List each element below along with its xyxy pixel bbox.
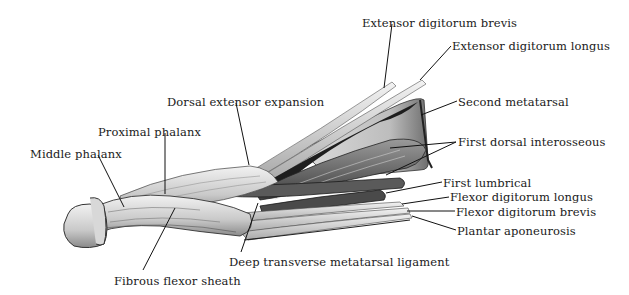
label-middle-phalanx: Middle phalanx [30, 149, 122, 161]
label-flexor-digitorum-longus: Flexor digitorum longus [450, 192, 593, 204]
label-deep-transverse-metatarsal-ligament: Deep transverse metatarsal ligament [229, 257, 449, 269]
anatomy-figure: Extensor digitorum brevis Extensor digit… [0, 0, 629, 295]
label-second-metatarsal: Second metatarsal [458, 97, 569, 109]
phalanges-shape [96, 195, 252, 236]
label-first-dorsal-interosseous: First dorsal interosseous [458, 137, 605, 149]
flexor-tendons-shape [230, 202, 412, 240]
label-first-lumbrical: First lumbrical [443, 178, 531, 190]
label-flexor-digitorum-brevis: Flexor digitorum brevis [456, 207, 596, 219]
label-extensor-digitorum-brevis: Extensor digitorum brevis [362, 18, 517, 30]
label-proximal-phalanx: Proximal phalanx [98, 127, 201, 139]
label-fibrous-flexor-sheath: Fibrous flexor sheath [114, 276, 241, 288]
label-plantar-aponeurosis: Plantar aponeurosis [457, 226, 576, 238]
label-extensor-digitorum-longus: Extensor digitorum longus [452, 41, 610, 53]
distal-phalanx-shape [64, 198, 107, 248]
label-dorsal-extensor-expansion: Dorsal extensor expansion [167, 97, 324, 109]
